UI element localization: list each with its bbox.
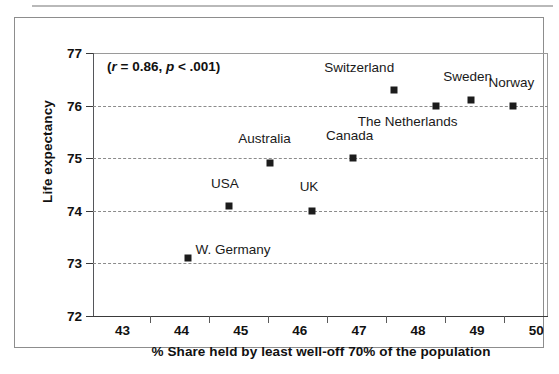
data-point [225,202,232,209]
plot-box-border [93,53,548,316]
y-tick-label-73: 73 [67,256,82,271]
point-label: Canada [326,128,373,143]
data-point [308,207,315,214]
gridline-y-75 [93,158,548,159]
x-tick-label-44: 44 [174,323,189,338]
gridline-y-73 [93,263,548,264]
y-tick-label-72: 72 [67,309,82,324]
x-tick-mark-45 [268,316,269,323]
x-tick-label-43: 43 [115,323,130,338]
data-point [184,255,191,262]
y-tick-mark-77 [86,53,93,54]
y-tick-label-74: 74 [67,203,82,218]
plot-area: 727374757677 4344454647484950 W. Germany… [93,53,548,316]
data-point [350,155,357,162]
annotation-p-value: < .001) [174,59,220,74]
point-label: W. Germany [196,242,271,257]
point-label: Switzerland [324,60,394,75]
point-label: UK [300,179,319,194]
x-tick-mark-44 [209,316,210,323]
y-tick-label-76: 76 [67,98,82,113]
x-tick-mark-48 [445,316,446,323]
x-tick-mark-49 [504,316,505,323]
annotation-p-symbol: p [166,59,174,74]
data-point [391,86,398,93]
y-tick-label-75: 75 [67,151,82,166]
y-tick-mark-76 [86,106,93,107]
data-point [468,97,475,104]
page-top-rule [32,5,553,7]
x-axis-line [93,316,548,317]
correlation-annotation: (r = 0.86, p < .001) [107,59,220,74]
gridline-y-74 [93,211,548,212]
x-tick-label-50: 50 [529,323,544,338]
data-point [509,102,516,109]
point-label: Australia [238,131,291,146]
y-axis-line [93,53,94,316]
data-point [432,102,439,109]
figure-frame: Life expectancy % Share held by least we… [14,17,544,348]
point-label: Sweden [443,69,492,84]
y-tick-mark-74 [86,211,93,212]
annotation-r-value: = 0.86, [117,59,166,74]
x-tick-label-49: 49 [470,323,485,338]
point-label: USA [211,176,239,191]
point-label: The Netherlands [358,114,458,129]
gridline-y-76 [93,106,548,107]
point-label: Norway [489,75,535,90]
x-axis-title: % Share held by least well-off 70% of th… [93,344,549,359]
x-tick-label-47: 47 [351,323,366,338]
x-tick-mark-43 [150,316,151,323]
x-tick-label-48: 48 [410,323,425,338]
x-tick-mark-47 [386,316,387,323]
y-axis-title: Life expectancy [40,72,55,232]
y-tick-mark-73 [86,263,93,264]
data-point [267,160,274,167]
y-tick-mark-72 [86,316,93,317]
y-tick-mark-75 [86,158,93,159]
y-tick-label-77: 77 [67,46,82,61]
x-tick-label-45: 45 [233,323,248,338]
x-tick-mark-46 [327,316,328,323]
x-tick-label-46: 46 [292,323,307,338]
